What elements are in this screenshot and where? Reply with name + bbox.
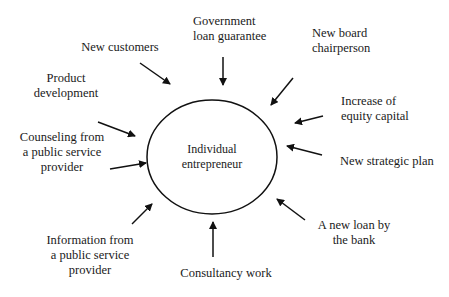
node-text: provider	[16, 160, 108, 175]
arrow-new-board-chairperson	[271, 78, 293, 105]
node-text: equity capital	[341, 109, 409, 124]
node-new-loan-by-bank: A new loan by the bank	[314, 218, 394, 248]
arrow-information-public-service	[132, 204, 152, 224]
node-text: New strategic plan	[340, 154, 434, 169]
node-text: chairperson	[312, 41, 370, 56]
node-counseling-public-service: Counseling from a public service provide…	[16, 130, 108, 175]
arrow-new-loan-by-bank	[277, 199, 305, 220]
node-new-board-chairperson: New board chairperson	[312, 26, 370, 56]
node-text: provider	[42, 263, 138, 278]
node-text: Consultancy work	[176, 266, 276, 281]
node-text: Product	[30, 71, 102, 86]
node-text: development	[30, 86, 102, 101]
node-text: A new loan by	[314, 218, 394, 233]
node-increase-of-equity-capital: Increase of equity capital	[341, 94, 409, 124]
node-government-loan-guarantee: Government loan guarantee	[193, 14, 266, 44]
node-text: a public service	[16, 145, 108, 160]
node-new-customers: New customers	[70, 40, 170, 55]
node-text: Counseling from	[16, 130, 108, 145]
node-text: a public service	[42, 248, 138, 263]
node-text: Government	[193, 14, 266, 29]
node-text: loan guarantee	[193, 29, 266, 44]
node-text: the bank	[314, 233, 394, 248]
node-product-development: Product development	[30, 71, 102, 101]
center-label-line2: entrepreneur	[162, 157, 262, 172]
node-text: New customers	[70, 40, 170, 55]
arrow-new-strategic-plan	[287, 146, 322, 155]
center-label-line1: Individual	[162, 142, 262, 157]
arrow-new-customers	[140, 63, 170, 84]
node-text: Information from	[42, 233, 138, 248]
arrow-increase-of-equity-capital	[295, 116, 323, 123]
diagram-canvas: Individual entrepreneur New customers Go…	[0, 0, 449, 297]
node-new-strategic-plan: New strategic plan	[340, 154, 434, 169]
arrow-counseling-public-service	[110, 163, 146, 169]
node-text: Increase of	[341, 94, 409, 109]
node-consultancy-work: Consultancy work	[176, 266, 276, 281]
center-label: Individual entrepreneur	[162, 142, 262, 172]
node-text: New board	[312, 26, 370, 41]
node-information-public-service: Information from a public service provid…	[42, 233, 138, 278]
